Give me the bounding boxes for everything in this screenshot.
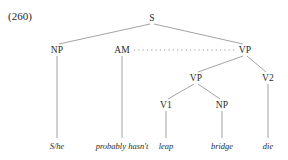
node-v2: V2 [262,73,274,83]
terminal-bridge: bridge [211,141,233,151]
edge-s-np [59,24,150,44]
terminal-shhe: S/he [50,141,65,151]
edge-vp-v1 [168,84,194,99]
node-v1: V1 [160,100,172,110]
terminal-leap: leap [159,141,174,151]
terminal-die: die [263,141,273,151]
edge-vp-np [198,84,220,99]
edge-s-vp [154,24,243,44]
figure-canvas: (260) S NP [0,0,288,160]
syntax-tree-edges [0,0,288,160]
node-np-subject: NP [51,45,64,55]
edge-vp-vp [198,56,243,72]
node-vp-lower: VP [190,73,203,83]
node-s: S [149,13,154,23]
node-am: AM [114,45,130,55]
edge-vp-v2 [247,56,266,72]
node-vp-upper: VP [239,45,252,55]
terminal-probably-hasnt: probably hasn't [96,141,149,151]
node-np-object: NP [216,100,229,110]
